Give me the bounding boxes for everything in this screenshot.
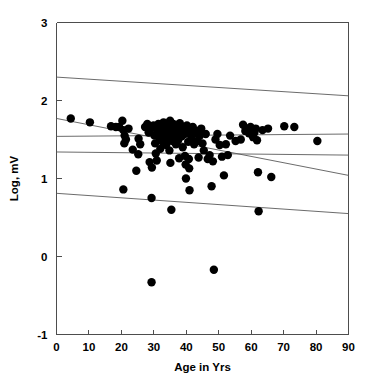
data-point: [253, 136, 261, 144]
data-point: [207, 182, 215, 190]
upper-prediction-band: [57, 77, 349, 96]
data-point: [202, 130, 210, 138]
x-tick-label: 30: [147, 341, 160, 353]
data-point: [119, 185, 127, 193]
data-point: [194, 153, 202, 161]
data-point: [136, 140, 144, 148]
plot-canvas: 0102030405060708090-10123 Age in YrsLog,…: [0, 0, 372, 386]
data-point: [185, 186, 193, 194]
data-points-group: [67, 114, 322, 286]
y-tick-label: 3: [41, 17, 47, 29]
data-point: [165, 146, 173, 154]
data-point: [153, 156, 161, 164]
data-point: [86, 118, 94, 126]
data-point: [185, 164, 193, 172]
data-point: [220, 171, 228, 179]
data-point: [167, 206, 175, 214]
data-point: [313, 137, 321, 145]
data-point: [124, 124, 132, 132]
data-point: [209, 157, 217, 165]
x-tick-label: 80: [310, 341, 323, 353]
data-point: [254, 207, 262, 215]
x-axis-title: Age in Yrs: [174, 361, 231, 373]
x-tick-label: 0: [53, 341, 59, 353]
data-point: [118, 117, 126, 125]
data-point: [224, 151, 232, 159]
data-point: [132, 167, 140, 175]
x-tick-label: 70: [277, 341, 290, 353]
y-tick-label: 1: [41, 173, 48, 185]
x-tick-label: 20: [115, 341, 128, 353]
data-point: [290, 123, 298, 131]
data-point: [122, 135, 130, 143]
data-point: [134, 150, 142, 158]
data-point: [264, 124, 272, 132]
data-point: [254, 168, 262, 176]
tick-labels-group: 0102030405060708090-10123: [37, 17, 355, 353]
x-tick-label: 90: [342, 341, 355, 353]
data-point: [182, 174, 190, 182]
y-tick-label: 0: [41, 251, 47, 263]
y-axis-title: Log, mV: [8, 155, 20, 201]
axes-group: [57, 23, 349, 335]
x-tick-label: 40: [180, 341, 193, 353]
data-point: [267, 173, 275, 181]
data-point: [148, 163, 156, 171]
data-point: [198, 139, 206, 147]
data-point: [166, 159, 174, 167]
data-point: [147, 194, 155, 202]
x-tick-label: 60: [245, 341, 258, 353]
x-tick-label: 50: [212, 341, 225, 353]
lower-prediction-band: [57, 193, 349, 213]
data-point: [213, 130, 221, 138]
data-point: [67, 114, 75, 122]
y-tick-label: -1: [37, 329, 48, 341]
x-tick-label: 10: [83, 341, 96, 353]
data-point: [280, 122, 288, 130]
data-point: [185, 155, 193, 163]
y-tick-label: 2: [41, 95, 47, 107]
data-point: [237, 135, 245, 143]
data-point: [147, 278, 155, 286]
scatter-plot-figure: 0102030405060708090-10123 Age in YrsLog,…: [0, 0, 372, 386]
data-point: [210, 266, 218, 274]
data-point: [222, 140, 230, 148]
